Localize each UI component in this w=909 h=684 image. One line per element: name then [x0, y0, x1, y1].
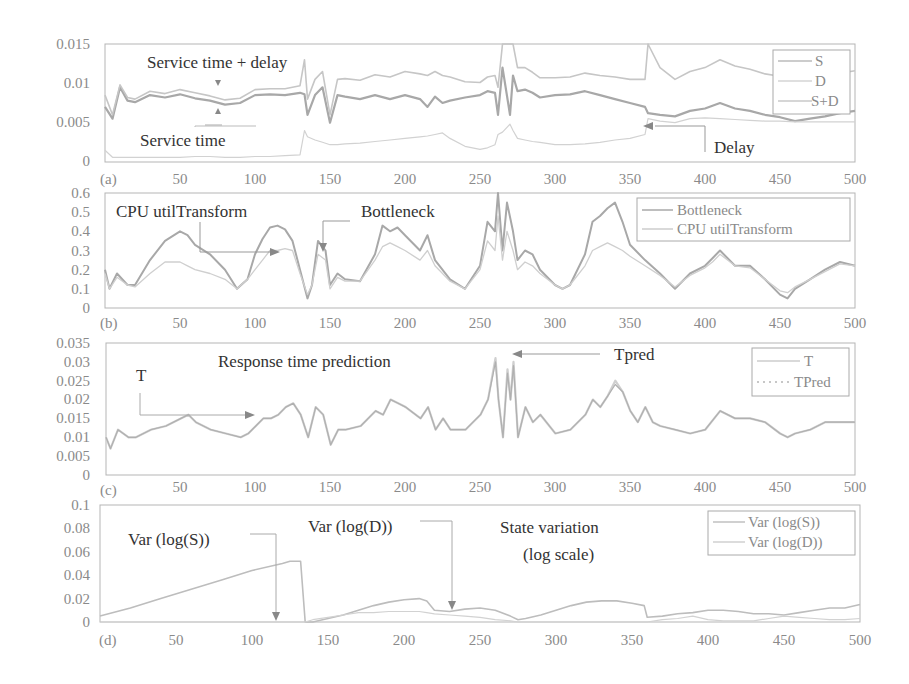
- panel-a-legend: S D S+D: [773, 50, 850, 114]
- x-tick: 350: [619, 171, 642, 187]
- x-tick: 50: [173, 479, 188, 495]
- annotation-service-time-delay: Service time + delay: [147, 53, 288, 72]
- x-tick: 350: [619, 479, 642, 495]
- series-line-t: [106, 358, 855, 449]
- panel-c-x-axis: (c) 50 100 150 200 250 300 350 400 450 5…: [100, 479, 866, 499]
- legend-label-bottleneck: Bottleneck: [677, 202, 742, 218]
- legend-label-tpred: TPred: [794, 374, 831, 390]
- panel-c-annotations: T Response time prediction Tpred: [136, 345, 655, 419]
- panel-c-legend: T TPred: [752, 348, 849, 396]
- panel-b-x-axis: (b) 50 100 150 200 250 300 350 400 450 5…: [100, 315, 866, 332]
- x-tick: 400: [694, 315, 717, 331]
- annotation-leader: [420, 521, 452, 603]
- x-tick: 150: [317, 632, 340, 648]
- y-tick: 0.01: [64, 75, 90, 91]
- x-tick: 200: [394, 315, 417, 331]
- x-tick: 450: [769, 315, 792, 331]
- annotation-leader: [250, 534, 276, 614]
- x-tick: 500: [844, 315, 867, 331]
- panel-c-series: [106, 358, 855, 449]
- annotation-var-log-s: Var (log(S)): [128, 530, 210, 549]
- arrow-right-icon: [245, 411, 255, 419]
- panel-d-legend: Var (log(S)) Var (log(D)): [708, 511, 855, 555]
- legend-label-var-s: Var (log(S)): [748, 514, 820, 531]
- arrow-left-icon: [512, 350, 522, 358]
- annotation-leader: [323, 221, 350, 245]
- x-tick: 500: [849, 632, 872, 648]
- y-tick: 0.08: [64, 520, 90, 536]
- x-tick: 200: [393, 632, 416, 648]
- y-tick: 0.01: [64, 429, 90, 445]
- y-tick: 0.1: [71, 497, 90, 513]
- panel-label: (d): [99, 632, 117, 649]
- x-tick: 100: [244, 171, 267, 187]
- x-tick: 350: [621, 632, 644, 648]
- panel-a-y-axis: 0 0.005 0.01 0.015: [56, 36, 90, 169]
- y-tick: 0.035: [56, 335, 90, 351]
- x-tick: 50: [173, 315, 188, 331]
- panel-label: (b): [100, 315, 118, 332]
- annotation-log-scale: (log scale): [523, 545, 594, 564]
- panel-c-y-axis: 0 0.005 0.01 0.015 0.02 0.025 0.03 0.035: [56, 335, 90, 483]
- x-tick: 500: [844, 479, 867, 495]
- annotation-leader: [200, 222, 272, 252]
- annotation-var-log-d: Var (log(D)): [308, 517, 393, 536]
- annotation-bottleneck: Bottleneck: [361, 202, 435, 221]
- figure-four-panel-timeseries: 0 0.005 0.01 0.015 (a) 50 100 150 200 25…: [0, 0, 909, 684]
- x-tick: 250: [469, 632, 492, 648]
- legend-label-s: S: [815, 53, 823, 69]
- panel-d-y-axis: 0 0.02 0.04 0.06 0.08 0.1: [64, 497, 91, 630]
- y-tick: 0.02: [64, 591, 90, 607]
- x-tick: 200: [394, 479, 417, 495]
- x-tick: 50: [173, 171, 188, 187]
- arrow-left-icon: [643, 122, 653, 130]
- annotation-state-variation: State variation: [500, 518, 599, 537]
- y-tick: 0.03: [64, 354, 90, 370]
- panel-a-annotations: Service time + delay Service time Delay: [140, 53, 755, 157]
- y-tick: 0.06: [64, 544, 91, 560]
- series-line-s: [105, 68, 855, 123]
- annotation-leader: [655, 126, 705, 152]
- panel-label: (c): [100, 482, 117, 499]
- legend-label-cpu: CPU utilTransform: [677, 221, 793, 237]
- x-tick: 500: [844, 171, 867, 187]
- y-tick: 0.025: [56, 373, 90, 389]
- x-tick: 200: [394, 171, 417, 187]
- arrow-right-icon: [270, 248, 280, 256]
- y-tick: 0.6: [71, 185, 90, 201]
- x-tick: 250: [469, 315, 492, 331]
- panel-label: (a): [100, 171, 117, 188]
- legend-label-var-d: Var (log(D)): [748, 534, 823, 551]
- x-tick: 300: [544, 171, 567, 187]
- x-tick: 400: [694, 171, 717, 187]
- legend-label-t: T: [804, 353, 813, 369]
- panel-b-y-axis: 0 0.1 0.2 0.3 0.4 0.5 0.6: [71, 185, 90, 316]
- x-tick: 300: [545, 632, 568, 648]
- y-tick: 0: [83, 300, 91, 316]
- x-tick: 100: [241, 632, 264, 648]
- y-tick: 0.2: [71, 262, 90, 278]
- panel-d-series: [100, 561, 860, 622]
- x-tick: 150: [319, 479, 342, 495]
- panel-b: 0 0.1 0.2 0.3 0.4 0.5 0.6 (b) 50 100 150…: [71, 185, 866, 332]
- y-tick: 0.015: [56, 410, 90, 426]
- y-tick: 0.02: [64, 391, 90, 407]
- x-tick: 300: [544, 479, 567, 495]
- annotation-cpu-utiltransform: CPU utilTransform: [116, 202, 247, 221]
- arrow-up-icon: [215, 108, 221, 114]
- x-tick: 100: [244, 315, 267, 331]
- x-tick: 50: [169, 632, 184, 648]
- arrow-down-icon: [272, 612, 280, 621]
- x-tick: 300: [544, 315, 567, 331]
- x-tick: 400: [694, 479, 717, 495]
- y-tick: 0.4: [71, 223, 90, 239]
- legend-label-d: D: [815, 73, 826, 89]
- y-tick: 0: [83, 467, 91, 483]
- x-tick: 100: [244, 479, 267, 495]
- y-tick: 0.04: [64, 567, 91, 583]
- x-tick: 150: [319, 315, 342, 331]
- x-tick: 400: [697, 632, 720, 648]
- x-tick: 250: [469, 171, 492, 187]
- panel-d-x-axis: (d) 50 100 150 200 250 300 350 400 450 5…: [99, 632, 871, 649]
- y-tick: 0.005: [56, 448, 90, 464]
